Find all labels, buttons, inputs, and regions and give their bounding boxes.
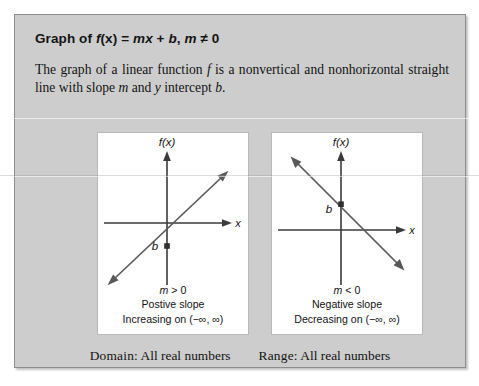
positive-slope-graph: f(x) x b xyxy=(98,133,248,293)
heading-equals: = xyxy=(117,31,133,46)
heading-prefix: Graph of xyxy=(35,31,96,46)
intro-part3: and xyxy=(128,80,154,95)
heading-neq-icon: ≠ xyxy=(197,31,212,46)
domain-value: All real numbers xyxy=(141,348,231,363)
heading-b: b xyxy=(168,31,176,46)
graph-panel-positive-slope: f(x) x b m > 0 Postive slope Increasing … xyxy=(97,132,249,335)
intro-part1: The graph of a linear function xyxy=(35,62,207,77)
caption-slope-type-negative: Negative slope xyxy=(272,297,422,311)
range-value: All real numbers xyxy=(300,348,390,363)
caption-slope-type-positive: Postive slope xyxy=(98,297,248,311)
heading-plus: + xyxy=(153,31,169,46)
caption-condition-rest: > 0 xyxy=(168,284,186,296)
intro-b: b xyxy=(215,80,222,95)
x-axis-arrowhead-icon xyxy=(222,219,232,227)
heading-m2: m xyxy=(184,31,196,46)
y-intercept-marker xyxy=(164,243,170,249)
x-axis-arrowhead-icon xyxy=(396,226,406,234)
intro-m: m xyxy=(118,80,128,95)
function-line xyxy=(114,177,222,279)
graph-panel-negative-slope: f(x) x b m < 0 Negative slope Decreasing… xyxy=(271,132,423,335)
caption-condition-positive: m > 0 xyxy=(98,283,248,297)
y-axis-label: f(x) xyxy=(159,136,176,148)
x-axis-label: x xyxy=(408,224,415,236)
y-intercept-label: b xyxy=(152,240,159,252)
heading-m: m xyxy=(133,31,145,46)
definition-description: The graph of a linear function f is a no… xyxy=(35,61,449,97)
y-axis-arrowhead-icon xyxy=(163,151,171,161)
y-intercept-marker xyxy=(338,201,344,207)
intro-part4: intercept xyxy=(161,80,215,95)
domain-label: Domain: xyxy=(90,348,138,363)
definition-box: Graph of f(x) = mx + b, m ≠ 0 The graph … xyxy=(14,14,466,368)
y-axis-label: f(x) xyxy=(333,136,350,148)
heading-of-x: (x) xyxy=(101,31,118,46)
negative-slope-graph: f(x) x b xyxy=(272,133,422,293)
caption-interval-negative: Decreasing on (−∞, ∞) xyxy=(272,312,422,326)
domain-range-line: Domain: All real numbersRange: All real … xyxy=(29,348,451,364)
panel-caption-negative: m < 0 Negative slope Decreasing on (−∞, … xyxy=(272,283,422,326)
range-label: Range: xyxy=(259,348,298,363)
function-line xyxy=(297,163,398,264)
definition-heading: Graph of f(x) = mx + b, m ≠ 0 xyxy=(35,31,219,46)
caption-interval-positive: Increasing on (−∞, ∞) xyxy=(98,312,248,326)
intro-part5: . xyxy=(222,80,225,95)
panel-caption-positive: m > 0 Postive slope Increasing on (−∞, ∞… xyxy=(98,283,248,326)
heading-zero: 0 xyxy=(212,31,220,46)
x-axis-label: x xyxy=(234,217,241,229)
heading-x: x xyxy=(145,31,153,46)
caption-condition-rest: < 0 xyxy=(342,284,360,296)
y-axis-arrowhead-icon xyxy=(337,151,345,161)
y-intercept-label: b xyxy=(326,203,333,215)
caption-condition-negative: m < 0 xyxy=(272,283,422,297)
